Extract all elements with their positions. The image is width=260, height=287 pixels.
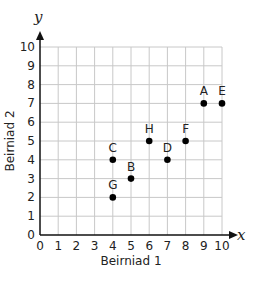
data-point-b: B: [127, 160, 135, 182]
data-point-c: C: [109, 141, 117, 163]
x-tick-label: 6: [145, 239, 153, 253]
x-tick-label: 0: [36, 239, 44, 253]
x-tick-label: 7: [164, 239, 172, 253]
point-label: B: [127, 160, 135, 174]
y-tick-label: 8: [27, 78, 35, 92]
grid-lines: [40, 47, 222, 235]
x-axis-variable: x: [237, 226, 246, 244]
point-label: A: [200, 84, 209, 98]
scatter-plot: 012345678910 012345678910 ABCDEFGH x y B…: [0, 0, 260, 287]
x-tick-label: 3: [91, 239, 99, 253]
y-tick-label: 7: [27, 96, 35, 110]
y-tick-label: 4: [27, 153, 35, 167]
point-label: F: [182, 122, 189, 136]
point-label: E: [218, 84, 226, 98]
point-label: D: [163, 141, 172, 155]
axes: [36, 31, 238, 239]
x-tick-label: 8: [182, 239, 190, 253]
y-tick-label: 0: [27, 228, 35, 242]
x-tick-label: 10: [214, 239, 229, 253]
y-tick-labels: 012345678910: [20, 40, 35, 242]
y-tick-label: 9: [27, 59, 35, 73]
y-axis-variable: y: [33, 8, 43, 26]
data-point-f: F: [182, 122, 189, 144]
y-tick-label: 1: [27, 209, 35, 223]
x-tick-label: 1: [54, 239, 62, 253]
point-label: G: [108, 178, 117, 192]
data-point-h: H: [145, 122, 154, 144]
cropped-caption-line: ▁ ▁ ▁ ▁ ▁ ▁ ▁ ▁ ▁ ▁ ▁ ▁ ▁ ▁ ▁ ▁ ▁: [20, 276, 240, 282]
y-tick-label: 10: [20, 40, 35, 54]
x-tick-label: 4: [109, 239, 117, 253]
x-tick-labels: 012345678910: [36, 239, 229, 253]
x-tick-label: 2: [73, 239, 81, 253]
y-tick-label: 6: [27, 115, 35, 129]
data-point-g: G: [108, 178, 117, 200]
x-axis-label: Beirniad 1: [100, 254, 161, 268]
point-label: C: [109, 141, 117, 155]
y-axis-label: Beirniad 2: [3, 110, 17, 171]
point-label: H: [145, 122, 154, 136]
y-tick-label: 5: [27, 134, 35, 148]
data-point-d: D: [163, 141, 172, 163]
x-tick-label: 5: [127, 239, 135, 253]
data-point-e: E: [218, 84, 226, 106]
y-tick-label: 3: [27, 172, 35, 186]
x-tick-label: 9: [200, 239, 208, 253]
y-tick-label: 2: [27, 190, 35, 204]
